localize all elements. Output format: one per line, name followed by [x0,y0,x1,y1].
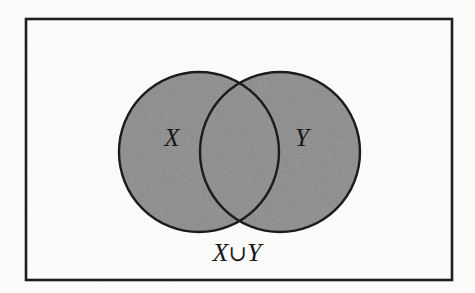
venn-diagram-figure: X Y X∪Y [0,0,475,293]
union-caption: X∪Y [212,238,264,267]
union-shaded-region [119,72,360,232]
caption-left-set: X [212,238,230,267]
union-operator-icon: ∪ [228,241,246,266]
venn-diagram-canvas: X Y X∪Y [0,0,475,293]
caption-right-set: Y [247,238,264,267]
left-set-label: X [163,124,181,151]
